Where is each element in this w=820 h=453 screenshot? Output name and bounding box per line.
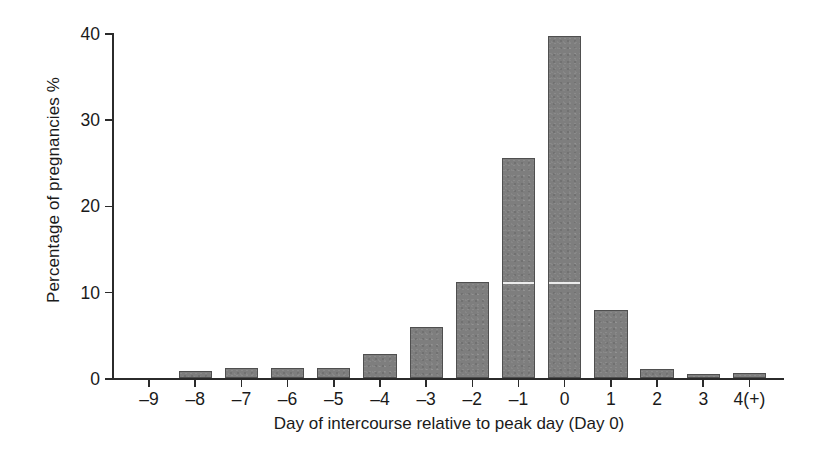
x-tick-–1 <box>518 379 520 387</box>
x-tick-–5 <box>333 379 335 387</box>
bar-scanline-artifact <box>549 282 580 284</box>
x-tick-2 <box>656 379 658 387</box>
x-tick-–6 <box>287 379 289 387</box>
bar-day-0 <box>548 36 581 378</box>
x-tick-–2 <box>472 379 474 387</box>
bar-day-–8 <box>179 371 212 378</box>
bar-day-–3 <box>410 327 443 378</box>
x-tick-–4 <box>379 379 381 387</box>
x-tick-3 <box>702 379 704 387</box>
x-tick-label-1: 1 <box>606 389 616 410</box>
y-tick-label-40: 40 <box>81 23 100 44</box>
x-tick-label-–1: –1 <box>509 389 528 410</box>
y-tick-label-0: 0 <box>90 368 100 389</box>
plot-area: 010203040 –9–8–7–6–5–4–3–2–101234(+) <box>113 33 785 378</box>
x-tick-1 <box>610 379 612 387</box>
x-tick-label-2: 2 <box>652 389 662 410</box>
x-tick-–7 <box>241 379 243 387</box>
bar-day-–6 <box>271 368 304 378</box>
x-tick-label-–8: –8 <box>185 389 204 410</box>
x-axis-line <box>112 378 784 380</box>
x-tick-–9 <box>148 379 150 387</box>
x-tick-label-–7: –7 <box>232 389 251 410</box>
bar-day-–2 <box>456 282 489 378</box>
chart-figure: Percentage of pregnancies % 010203040 –9… <box>0 0 820 453</box>
bar-scanline-artifact <box>503 282 534 284</box>
bar-day-1 <box>594 310 627 378</box>
x-axis-title: Day of intercourse relative to peak day … <box>113 414 785 434</box>
x-tick-label-–3: –3 <box>416 389 435 410</box>
bar-day-–4 <box>363 354 396 378</box>
bar-day-4(+) <box>733 373 766 378</box>
x-tick-0 <box>564 379 566 387</box>
y-tick-label-20: 20 <box>81 196 100 217</box>
y-axis-title: Percentage of pregnancies % <box>34 0 74 400</box>
x-tick-–8 <box>194 379 196 387</box>
x-tick-label-–4: –4 <box>370 389 389 410</box>
y-tick-10: 10 <box>105 292 112 294</box>
x-tick-label-–2: –2 <box>463 389 482 410</box>
x-tick-label-–5: –5 <box>324 389 343 410</box>
x-tick-label-–6: –6 <box>278 389 297 410</box>
x-tick-–3 <box>425 379 427 387</box>
x-tick-label-3: 3 <box>698 389 708 410</box>
x-tick-label-4(+): 4(+) <box>734 389 766 410</box>
y-tick-40: 40 <box>105 33 112 35</box>
y-tick-label-10: 10 <box>81 282 100 303</box>
x-tick-label-0: 0 <box>560 389 570 410</box>
y-tick-0: 0 <box>105 378 112 380</box>
y-tick-label-30: 30 <box>81 110 100 131</box>
x-tick-4(+) <box>749 379 751 387</box>
y-axis-line <box>112 33 114 378</box>
x-tick-label-–9: –9 <box>139 389 158 410</box>
bar-day-–7 <box>225 368 258 378</box>
bar-day-2 <box>640 369 673 378</box>
y-tick-30: 30 <box>105 119 112 121</box>
bar-day-–5 <box>317 368 350 378</box>
bar-day-3 <box>687 374 720 378</box>
y-tick-20: 20 <box>105 206 112 208</box>
bar-day-–1 <box>502 158 535 378</box>
